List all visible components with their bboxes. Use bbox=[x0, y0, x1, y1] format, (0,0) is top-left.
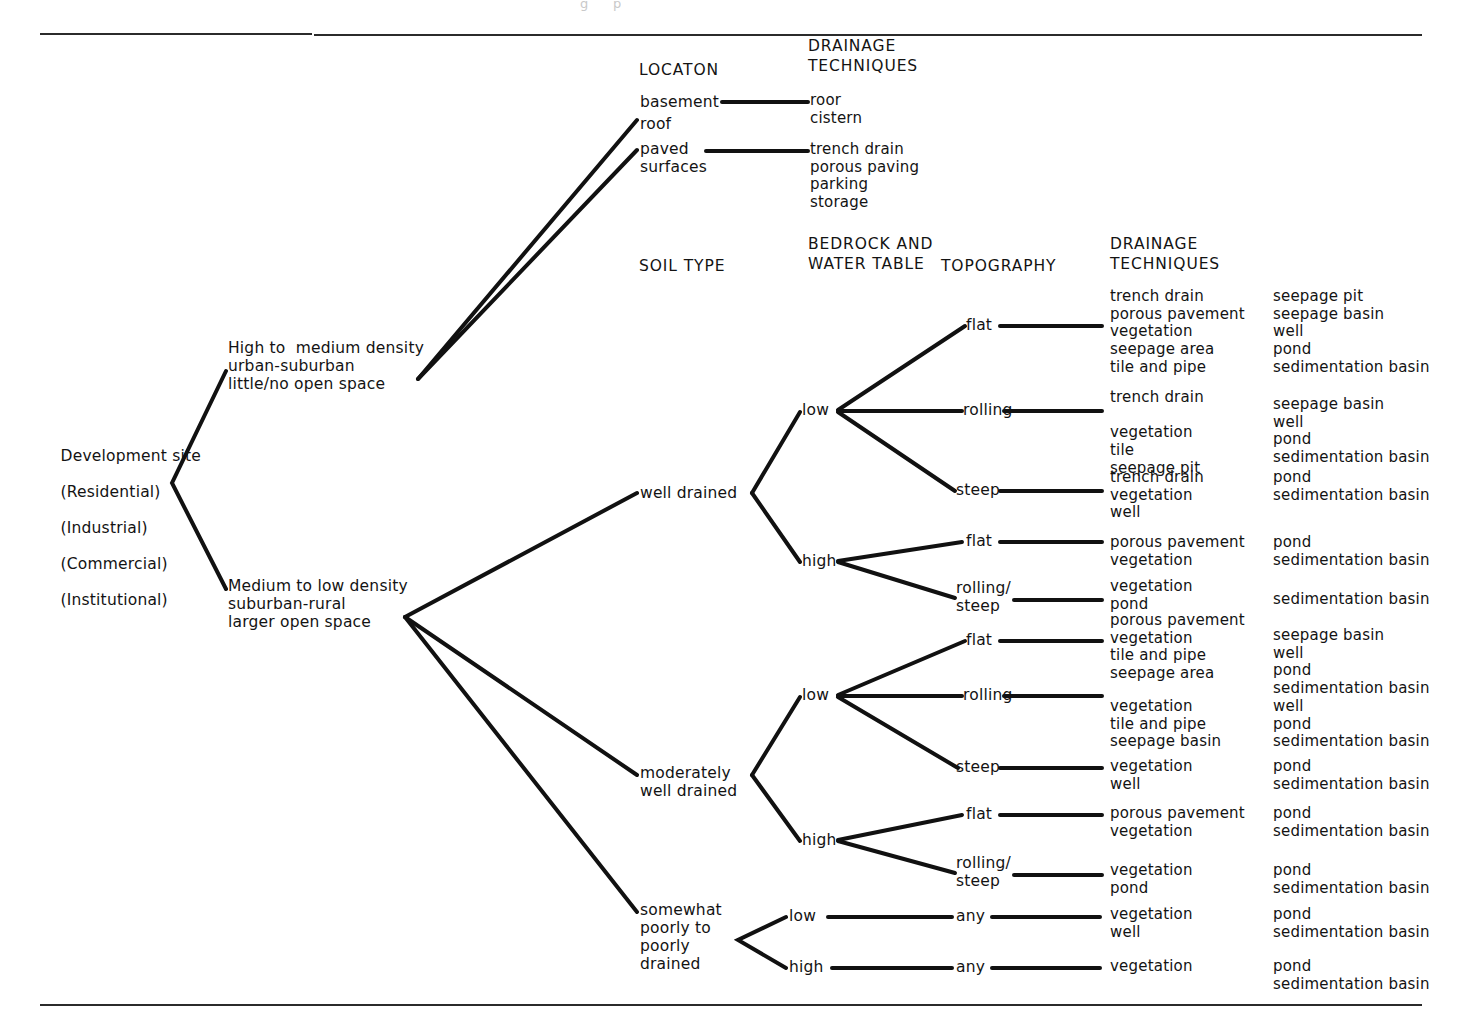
storage-wd-low-flat: seepage pit seepage basin well pond sedi… bbox=[1273, 288, 1430, 376]
node-topography-mwd-high-flat: flat bbox=[966, 804, 992, 824]
storage-mwd-low-steep: pond sedimentation basin bbox=[1273, 758, 1430, 793]
bottom-rule bbox=[40, 1004, 1422, 1006]
techniques-mwd-low-steep: vegetation well bbox=[1110, 758, 1193, 793]
storage-mwd-low-rolling: well pond sedimentation basin bbox=[1273, 698, 1430, 751]
node-topography-mwd-low-rolling: rolling bbox=[963, 685, 1013, 705]
node-location-roof: roof bbox=[640, 114, 671, 134]
techniques-mwd-low-rolling: vegetation tile and pipe seepage basin bbox=[1110, 698, 1221, 751]
node-water-table-pd-low: low bbox=[789, 906, 816, 926]
top-rule-left bbox=[40, 33, 312, 35]
techniques-pd-high-any: vegetation bbox=[1110, 958, 1193, 976]
node-topography-mwd-high-rolling-steep: rolling/ steep bbox=[956, 855, 1011, 891]
techniques-paved: trench drain porous paving parking stora… bbox=[810, 141, 919, 212]
node-topography-pd-low-any: any bbox=[956, 906, 985, 926]
root-node-development-site: Development site (Residential) (Industri… bbox=[40, 430, 201, 628]
techniques-wd-high-flat: porous pavement vegetation bbox=[1110, 534, 1245, 569]
node-water-table-mwd-high: high bbox=[802, 830, 837, 850]
header-soil-type: SOIL TYPE bbox=[639, 256, 725, 276]
tree-connector-lines bbox=[0, 0, 1460, 1032]
header-drainage-techniques-top: DRAINAGE TECHNIQUES bbox=[808, 36, 918, 76]
storage-mwd-high-rolling-steep: pond sedimentation basin bbox=[1273, 862, 1430, 897]
storage-pd-low-any: pond sedimentation basin bbox=[1273, 906, 1430, 941]
techniques-basement-roof: roor cistern bbox=[810, 92, 862, 127]
node-medium-low-density: Medium to low density suburban-rural lar… bbox=[228, 578, 408, 632]
node-topography-wd-low-rolling: rolling bbox=[963, 400, 1013, 420]
node-topography-wd-low-flat: flat bbox=[966, 315, 992, 335]
root-line-2: (Industrial) bbox=[61, 519, 148, 537]
storage-wd-high-rolling-steep: sedimentation basin bbox=[1273, 591, 1430, 609]
techniques-wd-low-rolling: trench drain vegetation tile seepage pit bbox=[1110, 389, 1204, 477]
root-line-0: Development site bbox=[61, 447, 201, 465]
header-bedrock-water-table: BEDROCK AND WATER TABLE bbox=[808, 234, 933, 274]
header-location: LOCATON bbox=[639, 60, 719, 80]
storage-mwd-low-flat: seepage basin well pond sedimentation ba… bbox=[1273, 627, 1430, 698]
storage-wd-low-rolling: seepage basin well pond sedimentation ba… bbox=[1273, 396, 1430, 467]
root-line-1: (Residential) bbox=[61, 483, 161, 501]
figure-page: g p bbox=[0, 0, 1460, 1032]
techniques-mwd-low-flat: porous pavement vegetation tile and pipe… bbox=[1110, 612, 1245, 683]
root-line-4: (Institutional) bbox=[61, 591, 168, 609]
techniques-wd-high-rolling-steep: vegetation pond bbox=[1110, 578, 1193, 613]
root-line-3: (Commercial) bbox=[61, 555, 168, 573]
techniques-wd-low-steep: trench drain vegetation well bbox=[1110, 469, 1204, 522]
techniques-wd-low-flat: trench drain porous pavement vegetation … bbox=[1110, 288, 1245, 376]
node-topography-wd-high-rolling-steep: rolling/ steep bbox=[956, 580, 1011, 616]
node-topography-wd-high-flat: flat bbox=[966, 531, 992, 551]
node-water-table-pd-high: high bbox=[789, 957, 824, 977]
techniques-mwd-high-rolling-steep: vegetation pond bbox=[1110, 862, 1193, 897]
node-topography-mwd-low-flat: flat bbox=[966, 630, 992, 650]
node-water-table-wd-low: low bbox=[802, 400, 829, 420]
storage-wd-high-flat: pond sedimentation basin bbox=[1273, 534, 1430, 569]
node-topography-mwd-low-steep: steep bbox=[956, 757, 1000, 777]
storage-wd-low-steep: pond sedimentation basin bbox=[1273, 469, 1430, 504]
node-topography-wd-low-steep: steep bbox=[956, 480, 1000, 500]
node-topography-pd-high-any: any bbox=[956, 957, 985, 977]
node-location-basement: basement bbox=[640, 92, 719, 112]
node-soil-poorly-drained: somewhat poorly to poorly drained bbox=[640, 902, 722, 974]
node-water-table-wd-high: high bbox=[802, 551, 837, 571]
header-topography: TOPOGRAPHY bbox=[941, 256, 1056, 276]
node-soil-moderately-well-drained: moderately well drained bbox=[640, 765, 737, 801]
node-water-table-mwd-low: low bbox=[802, 685, 829, 705]
techniques-mwd-high-flat: porous pavement vegetation bbox=[1110, 805, 1245, 840]
node-soil-well-drained: well drained bbox=[640, 483, 737, 503]
techniques-pd-low-any: vegetation well bbox=[1110, 906, 1193, 941]
storage-pd-high-any: pond sedimentation basin bbox=[1273, 958, 1430, 993]
header-drainage-techniques-main: DRAINAGE TECHNIQUES bbox=[1110, 234, 1220, 274]
storage-mwd-high-flat: pond sedimentation basin bbox=[1273, 805, 1430, 840]
node-location-paved-surfaces: paved surfaces bbox=[640, 141, 707, 177]
partial-caption-remnant: g p bbox=[580, 0, 621, 11]
node-high-medium-density: High to medium density urban-suburban li… bbox=[228, 340, 424, 394]
